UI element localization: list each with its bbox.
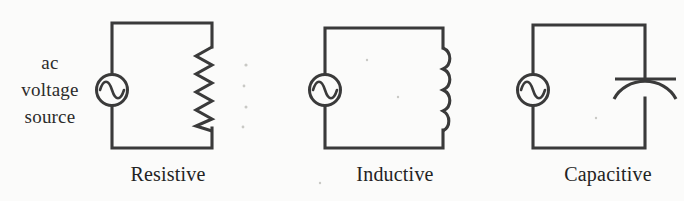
caption-inductive: Inductive <box>325 163 465 186</box>
capacitive-circuit <box>518 25 677 148</box>
ac-source-icon <box>97 75 128 106</box>
inductive-circuit <box>310 28 450 148</box>
capacitive-wire-bottom <box>533 98 645 148</box>
ac-source-icon <box>310 75 341 106</box>
inductive-wire-bottom <box>325 103 443 148</box>
capacitor-plate-curved <box>614 81 676 99</box>
resistive-circuit <box>97 23 213 148</box>
ac-source-icon <box>518 75 549 106</box>
inductor-coil-icon <box>443 48 450 131</box>
caption-capacitive: Capacitive <box>533 163 683 186</box>
circuit-figure: ac voltage source <box>0 0 684 201</box>
resistive-wire-top <box>112 23 212 77</box>
caption-resistive: Resistive <box>98 163 238 186</box>
capacitor-curved-plate-icon <box>614 79 676 99</box>
resistor-zigzag-icon <box>196 47 212 131</box>
inductive-wire-top <box>325 28 443 77</box>
capacitive-wire-top <box>533 25 645 79</box>
